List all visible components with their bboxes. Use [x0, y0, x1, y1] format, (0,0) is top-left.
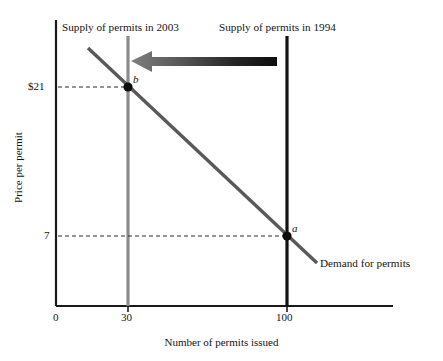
chart-plot-area: [0, 0, 443, 361]
y-tick-label-21: $21: [28, 81, 45, 92]
y-tick-label-7: 7: [44, 230, 50, 241]
data-point-b: [123, 82, 132, 91]
x-tick-label-0: 0: [53, 312, 59, 323]
annotation-supply-1994: Supply of permits in 1994: [219, 22, 336, 33]
demand-line: [88, 48, 317, 263]
x-tick-label-30: 30: [121, 312, 132, 323]
chart-figure: Supply of permits in 2003 Supply of perm…: [0, 0, 443, 361]
x-axis-title: Number of permits issued: [0, 337, 443, 348]
x-tick-label-100: 100: [276, 312, 293, 323]
annotation-supply-2003: Supply of permits in 2003: [62, 22, 179, 33]
point-label-a: a: [292, 223, 298, 234]
point-label-b: b: [133, 74, 139, 85]
y-axis-title: Price per permit: [13, 118, 24, 218]
data-point-a: [282, 231, 291, 240]
supply-shift-arrow: [131, 51, 277, 72]
annotation-demand: Demand for permits: [320, 258, 410, 269]
